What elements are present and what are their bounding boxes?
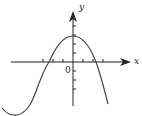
function-curve <box>2 36 108 115</box>
x-axis-label: x <box>134 57 139 66</box>
origin-label: 0 <box>65 66 71 75</box>
y-axis-label: y <box>79 3 84 12</box>
function-graph <box>0 0 142 116</box>
